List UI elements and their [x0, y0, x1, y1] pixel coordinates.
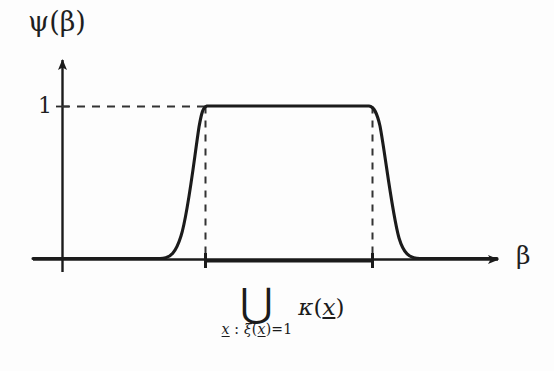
- y-axis-label: ψ(β): [28, 8, 86, 35]
- kappa-symbol: κ: [298, 294, 313, 320]
- kappa-argument: x: [322, 294, 335, 320]
- kappa-open-paren: (: [313, 294, 322, 320]
- union-icon: ⋃: [240, 286, 273, 321]
- union-subscript-separator: :: [230, 321, 244, 337]
- x-axis-label: β: [516, 243, 530, 268]
- figure-container: ψ(β) 1 β ⋃ x : ξ(x)=1 κ(x): [0, 0, 554, 371]
- union-subscript: x : ξ(x)=1: [222, 322, 293, 336]
- union-operator-stack: ⋃ x : ξ(x)=1: [222, 286, 293, 336]
- psi-curve: [33, 106, 497, 259]
- union-subscript-var: x: [222, 321, 230, 337]
- union-subscript-argument: x: [258, 321, 266, 337]
- union-subscript-equality: =1: [271, 321, 292, 337]
- support-caption: ⋃ x : ξ(x)=1 κ(x): [0, 286, 554, 336]
- y-tick-label-1: 1: [38, 95, 52, 117]
- kappa-close-paren: ): [335, 294, 344, 320]
- kappa-expression: κ(x): [298, 294, 344, 320]
